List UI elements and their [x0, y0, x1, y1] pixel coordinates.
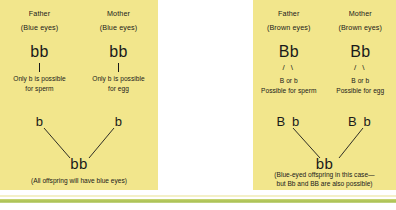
father-label: Father [253, 8, 325, 19]
panel-caption-blue: (All offspring will have blue eyes) [0, 176, 158, 186]
father-alleles: B or b [253, 76, 325, 86]
father-label: Father [0, 8, 79, 19]
father-genotype: Bb [253, 42, 325, 61]
divider-green [0, 199, 396, 203]
divider-pale [0, 195, 396, 197]
offspring-genotype-blue: bb [0, 155, 158, 172]
father-eye-color: (Blue eyes) [0, 22, 79, 33]
mother-label: Mother [79, 8, 158, 19]
father-gamete-note-line1: Only b is possible [0, 74, 79, 84]
mother-genotype: Bb [325, 42, 396, 61]
mother-allele-split-icon: / \ [325, 63, 396, 73]
father-gamete-note-line2: for sperm [0, 84, 79, 94]
father-column-brown: Father [253, 8, 325, 19]
mother-gamete-note: Possible for egg [325, 86, 396, 96]
father-gametes: B b [253, 114, 325, 129]
mother-gamete-note-line2: for egg [79, 84, 158, 94]
mother-column-blue: Mother [79, 8, 158, 19]
panel-brown-eyes-cross: Father Mother (Brown eyes) (Brown eyes) … [253, 0, 396, 190]
panel-caption-brown-line2: but Bb and BB are also possible) [253, 179, 396, 189]
mother-eye-color: (Brown eyes) [325, 22, 396, 33]
panel-blue-eyes-cross: Father Mother (Blue eyes) (Blue eyes) bb… [0, 0, 158, 190]
mother-gamete-note-line1: Only b is possible [79, 74, 158, 84]
father-eye-color: (Brown eyes) [253, 22, 325, 33]
mother-alleles: B or b [325, 76, 396, 86]
father-genotype: bb [0, 42, 79, 61]
father-column-blue: Father [0, 8, 79, 19]
mother-label: Mother [325, 8, 396, 19]
father-gamete: b [0, 114, 79, 129]
mother-genotype: bb [79, 42, 158, 61]
mother-gametes: B b [325, 114, 396, 129]
mother-column-brown: Mother [325, 8, 396, 19]
father-allele-split-icon: / \ [253, 63, 325, 73]
mother-gamete: b [79, 114, 158, 129]
mother-eye-color: (Blue eyes) [79, 22, 158, 33]
father-gamete-note: Possible for sperm [253, 86, 325, 96]
